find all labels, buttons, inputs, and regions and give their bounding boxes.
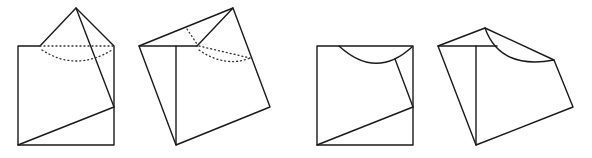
figure-2 [139,8,270,145]
fig2-hidden-edge-2 [199,46,250,58]
fig1-hidden-arc [42,50,112,61]
fig1-outline [18,8,114,145]
fold-diagram [0,0,592,158]
fig3-diagonal [317,107,413,145]
fig3-square [317,46,413,145]
figure-1 [18,8,114,145]
fig1-diagonal [18,107,114,145]
fig2-hidden-edge-1 [187,29,197,44]
fig2-outline [139,8,270,145]
fig3-arc-cut [339,46,412,63]
figure-3 [317,46,413,145]
fig2-flap-edge [197,8,233,46]
fig3-fold-line [395,59,413,107]
figure-4 [438,28,573,145]
